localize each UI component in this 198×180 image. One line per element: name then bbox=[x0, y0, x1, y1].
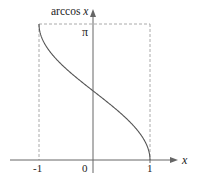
x-axis-arrow-icon bbox=[170, 157, 178, 163]
tick-label-neg1: -1 bbox=[33, 162, 42, 174]
x-axis-label: x bbox=[181, 153, 188, 167]
y-axis-arrow-icon bbox=[90, 9, 96, 17]
y-axis-label: arccos x bbox=[51, 5, 89, 17]
tick-label-0: 0 bbox=[82, 162, 88, 174]
tick-label-pi: π bbox=[82, 25, 88, 39]
tick-label-1: 1 bbox=[147, 162, 153, 174]
arccos-chart: arccos x π -1 0 1 x bbox=[0, 0, 198, 180]
arccos-curve bbox=[39, 24, 150, 160]
